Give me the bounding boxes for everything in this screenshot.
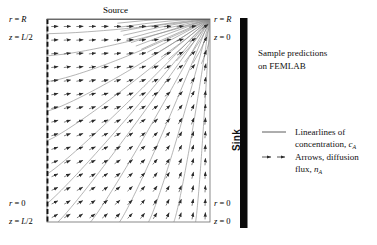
source-label: Source [103, 6, 128, 15]
label-top-right-r: r = R [214, 15, 232, 24]
legend-item-2-text: flux, [295, 164, 314, 174]
sink-label: Sink [231, 129, 242, 151]
diffusion-field-plot [0, 0, 377, 245]
label-bottom-right-z: z = 0 [214, 217, 231, 226]
label-top-left-r: r = R [9, 15, 27, 24]
label-bottom-left-z: z = L/2 [9, 217, 33, 226]
caption-line-1: Sample predictions [258, 47, 327, 60]
label-top-left-z: z = L/2 [9, 33, 33, 42]
sink-bar [240, 18, 248, 228]
label-top-right-z: z = 0 [214, 33, 231, 42]
legend-item-2-subscript: A [319, 169, 323, 175]
legend-item-2-line-2: flux, nA [295, 163, 322, 176]
figure-container: Source Sink r = R z = L/2 r = R z = 0 r … [0, 0, 377, 245]
label-bottom-left-r: r = 0 [9, 199, 26, 208]
caption-line-2: on FEMLAB [258, 60, 306, 73]
label-bottom-right-r: r = 0 [214, 199, 231, 208]
legend-item-1-subscript: A [352, 144, 356, 150]
legend-item-1-line-2: concentration, cA [295, 138, 356, 151]
legend-item-1-line-1: Linearlines of [295, 126, 345, 138]
plot-frame [47, 19, 210, 222]
legend-item-1-text: concentration, [295, 139, 348, 149]
legend-item-2-line-1: Arrows, diffusion [295, 151, 359, 163]
